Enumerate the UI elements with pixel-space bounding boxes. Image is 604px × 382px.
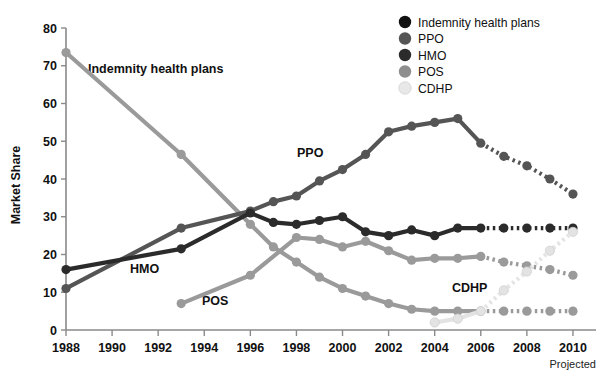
data-point <box>384 231 393 240</box>
data-point <box>430 118 439 127</box>
projected-note: Projected <box>550 358 596 370</box>
y-tick-label: 80 <box>43 22 57 36</box>
data-point <box>269 242 278 251</box>
data-point <box>499 223 508 232</box>
data-point <box>361 291 370 300</box>
data-point <box>453 114 462 123</box>
data-point <box>545 246 554 255</box>
series-pos <box>177 233 578 308</box>
data-point <box>545 265 554 274</box>
data-point <box>338 284 347 293</box>
data-point <box>522 307 531 316</box>
legend-label: POS <box>418 65 444 79</box>
data-point <box>430 318 439 327</box>
x-tick-label: 2006 <box>467 341 495 355</box>
data-point <box>568 227 577 236</box>
data-point <box>545 174 554 183</box>
data-point <box>568 307 577 316</box>
y-tick-label: 10 <box>43 286 57 300</box>
legend-marker <box>399 65 411 77</box>
legend-label: PPO <box>418 32 444 46</box>
x-tick-label: 2002 <box>375 341 403 355</box>
data-point <box>246 220 255 229</box>
data-point <box>61 284 70 293</box>
data-point <box>315 216 324 225</box>
data-point <box>499 257 508 266</box>
legend-marker <box>399 82 411 94</box>
legend-marker <box>399 16 411 28</box>
legend: Indemnity health plansPPOHMOPOSCDHP <box>399 16 540 96</box>
data-point <box>292 220 301 229</box>
data-point <box>522 223 531 232</box>
data-point <box>407 256 416 265</box>
y-tick-label: 60 <box>43 97 57 111</box>
data-point <box>545 307 554 316</box>
data-point <box>338 242 347 251</box>
y-tick-label: 30 <box>43 210 57 224</box>
data-point <box>499 307 508 316</box>
data-point <box>361 150 370 159</box>
data-point <box>315 176 324 185</box>
data-point <box>476 252 485 261</box>
y-tick-label: 40 <box>43 173 57 187</box>
series-inline-label: PPO <box>297 146 324 160</box>
data-point <box>292 191 301 200</box>
data-point <box>269 218 278 227</box>
x-tick-label: 2004 <box>421 341 449 355</box>
data-point <box>522 161 531 170</box>
data-point <box>453 254 462 263</box>
data-point <box>430 231 439 240</box>
data-point <box>384 246 393 255</box>
series-inline-label: POS <box>202 294 228 308</box>
chart-container: 0102030405060708019881990199219941996199… <box>0 0 604 382</box>
x-tick-label: 1992 <box>144 341 172 355</box>
legend-marker <box>399 32 411 44</box>
x-tick-label: 2010 <box>559 341 587 355</box>
x-tick-label: 2008 <box>513 341 541 355</box>
data-point <box>292 233 301 242</box>
y-tick-label: 0 <box>50 324 57 338</box>
data-point <box>499 286 508 295</box>
axes: 0102030405060708019881990199219941996199… <box>9 22 596 371</box>
series-inline-label: CDHP <box>452 281 487 295</box>
y-tick-label: 20 <box>43 248 57 262</box>
x-tick-label: 2000 <box>329 341 357 355</box>
data-point <box>522 267 531 276</box>
data-point <box>407 122 416 131</box>
data-point <box>430 307 439 316</box>
data-point <box>338 165 347 174</box>
legend-label: CDHP <box>418 82 453 96</box>
data-point <box>177 150 186 159</box>
data-point <box>453 314 462 323</box>
data-point <box>499 152 508 161</box>
series-inline-label: HMO <box>130 262 159 276</box>
data-point <box>61 48 70 57</box>
line-chart-svg: 0102030405060708019881990199219941996199… <box>0 0 604 382</box>
data-point <box>361 227 370 236</box>
data-point <box>61 265 70 274</box>
y-tick-label: 70 <box>43 59 57 73</box>
data-point <box>476 139 485 148</box>
data-point <box>246 271 255 280</box>
data-point <box>568 190 577 199</box>
data-point <box>453 223 462 232</box>
data-point <box>315 273 324 282</box>
legend-label: Indemnity health plans <box>418 16 540 30</box>
data-point <box>177 299 186 308</box>
x-tick-label: 1988 <box>52 341 80 355</box>
data-point <box>269 197 278 206</box>
data-point <box>384 127 393 136</box>
series-inline-label: Indemnity health plans <box>88 62 223 76</box>
data-point <box>338 212 347 221</box>
x-tick-label: 1990 <box>98 341 126 355</box>
data-point <box>246 208 255 217</box>
data-point <box>177 244 186 253</box>
data-point <box>407 305 416 314</box>
y-tick-label: 50 <box>43 135 57 149</box>
x-tick-label: 1994 <box>190 341 218 355</box>
data-point <box>315 235 324 244</box>
x-tick-label: 1998 <box>283 341 311 355</box>
data-point <box>476 307 485 316</box>
data-point <box>384 299 393 308</box>
data-point <box>568 271 577 280</box>
